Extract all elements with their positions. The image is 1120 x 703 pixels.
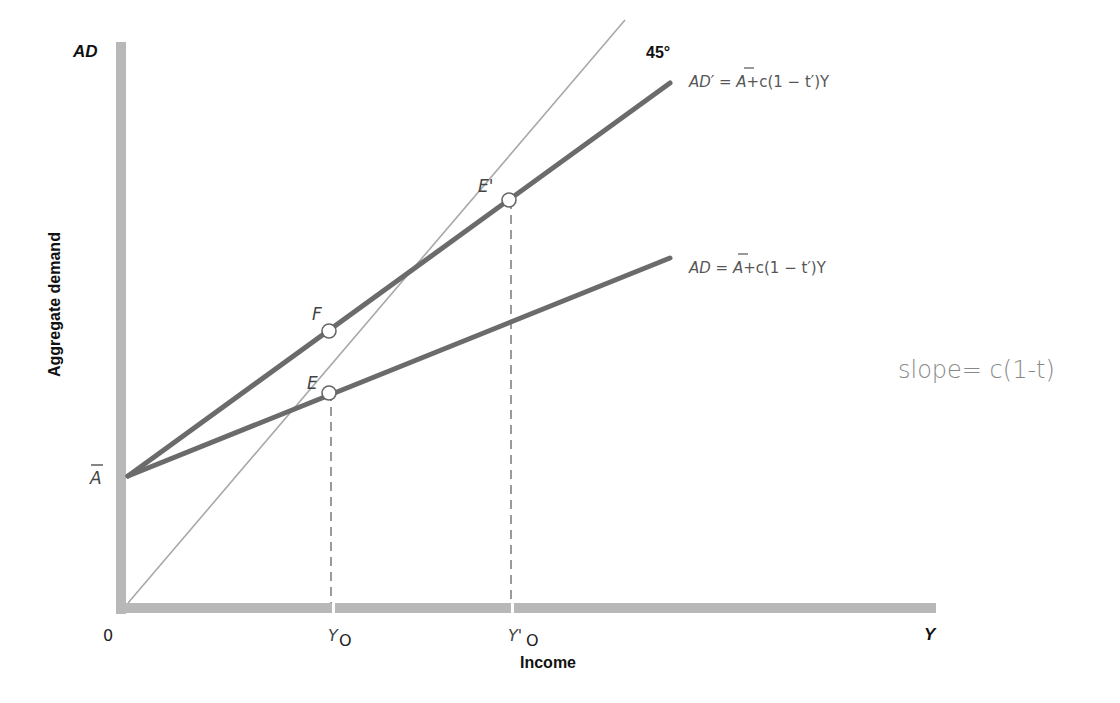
y-axis-title: Aggregate demand bbox=[46, 232, 63, 377]
x-axis bbox=[116, 603, 936, 613]
point-e-prime bbox=[502, 193, 516, 207]
y-axis bbox=[116, 42, 126, 614]
svg-text:O: O bbox=[339, 631, 352, 650]
svg-text:O: O bbox=[526, 631, 539, 650]
45-degree-line bbox=[128, 20, 625, 603]
y-axis-symbol: AD bbox=[72, 42, 98, 61]
svg-text:Y': Y' bbox=[508, 626, 522, 645]
x-axis-symbol: Y bbox=[924, 625, 937, 644]
x-tick-y0-prime bbox=[511, 603, 514, 613]
x-tick-label-y0-prime: Y' O bbox=[508, 626, 539, 650]
point-e bbox=[322, 386, 336, 400]
label-e-prime: E' bbox=[478, 176, 493, 196]
label-45-degree: 45° bbox=[646, 44, 670, 61]
ad-equation: AD = A+c(1 − t′)Y bbox=[688, 254, 827, 277]
svg-text:AD = A+c(1 − t′)Y: AD = A+c(1 − t′)Y bbox=[688, 259, 827, 277]
x-tick-label-y0: Y O bbox=[328, 626, 352, 650]
ad-line bbox=[128, 258, 670, 476]
x-tick-y0 bbox=[332, 603, 335, 613]
x-axis-title: Income bbox=[520, 654, 576, 671]
label-f: F bbox=[312, 304, 322, 324]
handwritten-slope-note: slope= c(1-t) bbox=[898, 356, 1055, 384]
ad-prime-equation: AD′ = A+c(1 − t′)Y bbox=[688, 68, 830, 91]
svg-text:A: A bbox=[89, 468, 102, 488]
a-bar-label: A bbox=[89, 465, 103, 488]
svg-text:Y: Y bbox=[328, 626, 339, 645]
point-f bbox=[322, 324, 336, 338]
income-expenditure-diagram: F E E' AD Y 0 A Y O Y' O Income Aggregat… bbox=[0, 0, 1120, 703]
svg-text:AD′ = A+c(1 − t′)Y: AD′ = A+c(1 − t′)Y bbox=[688, 73, 830, 91]
ad-prime-line bbox=[128, 83, 670, 476]
origin-label: 0 bbox=[103, 626, 113, 645]
label-e: E bbox=[307, 373, 318, 393]
